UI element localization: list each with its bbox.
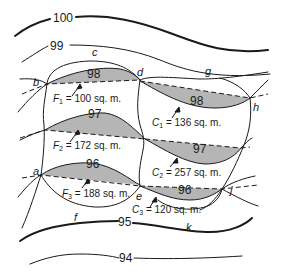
contour-99-left — [22, 46, 48, 62]
area-label-c2: C2 = 257 sq. m. — [152, 167, 221, 179]
area-label-f3: F3 = 188 sq. m. — [62, 188, 130, 200]
point-label-e: e — [136, 190, 142, 202]
point-label-h: h — [253, 101, 259, 113]
area-label-c3: C3 = 120 sq. m. — [132, 204, 201, 216]
contour-label-98-left: 98 — [87, 67, 101, 81]
contour-94-left — [30, 254, 119, 264]
area-c1-value: = 136 sq. m. — [163, 117, 221, 128]
contour-b-lower-line — [18, 84, 47, 112]
contour-94-right — [134, 256, 242, 259]
arrowhead-f1 — [77, 84, 82, 89]
area-label-f2: F2 = 172 sq. m. — [53, 140, 121, 152]
area-c3-value: = 120 sq. m. — [143, 204, 201, 215]
contour-label-97-left: 97 — [88, 107, 102, 121]
point-label-c: c — [92, 46, 98, 58]
arrowhead-c1 — [175, 107, 180, 112]
contour-label-98-right: 98 — [190, 94, 204, 108]
contour-95-right — [133, 218, 252, 232]
contour-label-100: 100 — [53, 11, 73, 25]
point-label-d: d — [137, 66, 144, 78]
area-c2-value: = 257 sq. m. — [163, 167, 221, 178]
point-label-f: f — [74, 211, 78, 223]
contour-label-95: 95 — [118, 215, 132, 229]
contour-95-left — [20, 221, 118, 241]
contour-label-94: 94 — [119, 251, 133, 265]
arrowhead-c2 — [173, 158, 178, 163]
contour-label-97-right: 97 — [193, 142, 207, 156]
point-label-a: a — [33, 165, 39, 177]
arrowhead-c3 — [152, 197, 157, 202]
point-label-j: j — [228, 184, 233, 196]
point-label-g: g — [205, 65, 212, 77]
area-f1-value: = 100 sq. m. — [63, 93, 121, 104]
point-label-b: b — [33, 76, 39, 88]
contour-label-96-right: 96 — [178, 183, 192, 197]
area-label-f1: F1 = 100 sq. m. — [53, 93, 121, 105]
contour-label-99: 99 — [50, 39, 64, 53]
contour-j-lower — [222, 189, 258, 206]
point-label-k: k — [186, 221, 192, 233]
contour-100-left — [15, 19, 50, 36]
diagram-canvas: 100 99 98 98 97 97 96 96 95 94 a b c d e… — [0, 0, 282, 277]
area-label-c1: C1 = 136 sq. m. — [152, 117, 221, 129]
contour-diagram: 100 99 98 98 97 97 96 96 95 94 a b c d e… — [0, 0, 282, 277]
area-f2-value: = 172 sq. m. — [63, 140, 121, 151]
contour-100-right — [76, 16, 268, 51]
contour-label-96-left: 96 — [86, 157, 100, 171]
area-f3-value: = 188 sq. m. — [72, 188, 130, 199]
